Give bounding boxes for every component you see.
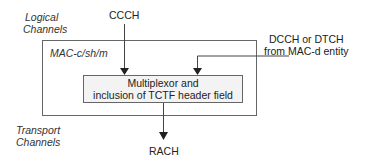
connector-arrows (0, 0, 366, 159)
ccch-arrowhead-icon (120, 68, 129, 75)
dcch-arrowhead-icon (193, 68, 202, 75)
dcch-arrow-line (198, 56, 290, 69)
rach-arrowhead-icon (159, 132, 168, 140)
